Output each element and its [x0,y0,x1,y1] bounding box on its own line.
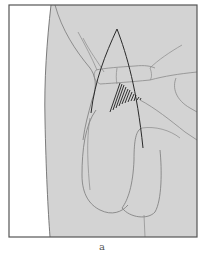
figure-caption: a [0,241,204,253]
illustration-canvas [0,0,204,240]
anatomical-illustration [0,0,204,240]
